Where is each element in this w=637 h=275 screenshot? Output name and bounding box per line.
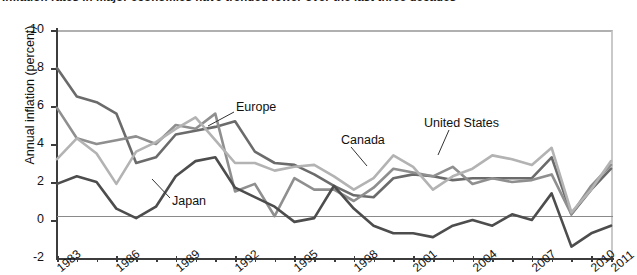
leader-line-united-states <box>438 130 449 155</box>
series-label-japan: Japan <box>172 194 206 208</box>
series-line-europe <box>57 68 611 214</box>
series-line-japan <box>57 157 611 246</box>
series-label-united-states: United States <box>424 116 499 130</box>
series-label-europe: Europe <box>236 100 276 114</box>
leader-line-canada <box>351 147 367 166</box>
series-label-canada: Canada <box>341 133 385 147</box>
series-line-united-states <box>57 117 611 212</box>
